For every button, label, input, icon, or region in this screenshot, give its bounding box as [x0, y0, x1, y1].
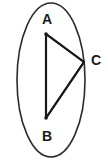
- vertex-point-a: [44, 32, 48, 36]
- vertex-label-a: A: [42, 11, 52, 27]
- geometry-figure: A B C: [0, 0, 108, 162]
- vertex-label-c: C: [91, 52, 101, 68]
- vertex-label-b: B: [42, 128, 52, 144]
- figure-background: [0, 0, 108, 162]
- vertex-point-b: [44, 116, 48, 120]
- geometry-canvas: A B C: [0, 0, 108, 162]
